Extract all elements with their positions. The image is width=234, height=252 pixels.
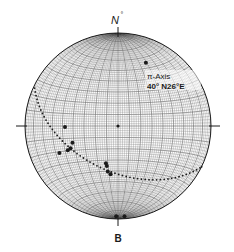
girdle-dot: [56, 134, 58, 136]
data-point: [109, 172, 113, 176]
girdle-dot: [156, 179, 158, 181]
girdle-dot: [61, 140, 63, 142]
girdle-dot: [137, 178, 139, 180]
girdle-dot: [45, 119, 47, 121]
data-point: [116, 124, 119, 127]
girdle-dot: [43, 116, 45, 118]
girdle-dot: [76, 153, 78, 155]
girdle-dot: [201, 166, 203, 168]
girdle-dot: [144, 179, 146, 181]
girdle-dot: [129, 176, 131, 178]
girdle-dot: [125, 176, 127, 178]
girdle-dot: [36, 98, 38, 100]
north-degree-mark: °: [121, 11, 124, 18]
girdle-dot: [47, 122, 49, 124]
north-label: N: [111, 14, 119, 26]
data-point: [63, 125, 67, 129]
pi-axis-orientation: 40° N26°E: [147, 82, 185, 91]
girdle-dot: [54, 132, 56, 134]
girdle-dot: [192, 171, 194, 173]
girdle-dot: [167, 178, 169, 180]
girdle-dot: [199, 167, 201, 169]
girdle-dot: [100, 167, 102, 169]
girdle-dot: [178, 176, 180, 178]
girdle-dot: [64, 143, 66, 145]
girdle-dot: [103, 168, 105, 170]
girdle-dot: [148, 179, 150, 181]
data-point: [70, 141, 74, 145]
girdle-dot: [73, 150, 75, 152]
girdle-dot: [79, 155, 81, 157]
girdle-dot: [39, 106, 41, 108]
girdle-dot: [122, 175, 124, 177]
girdle-dot: [42, 113, 44, 115]
pi-axis-point: [144, 61, 148, 65]
girdle-dot: [89, 161, 91, 163]
data-point: [105, 164, 109, 168]
data-point: [123, 214, 127, 218]
girdle-dot: [35, 95, 37, 97]
data-point: [57, 151, 61, 155]
girdle-dot: [182, 175, 184, 177]
bottom-label: B: [114, 233, 121, 244]
girdle-dot: [160, 179, 162, 181]
girdle-dot: [86, 159, 88, 161]
girdle-dot: [83, 157, 85, 159]
stereonet-diagram: N ° B π-Axis 40° N26°E: [0, 0, 234, 252]
girdle-dot: [34, 87, 36, 89]
girdle-dot: [133, 177, 135, 179]
pi-axis-label: π-Axis: [147, 72, 170, 81]
girdle-dot: [67, 145, 69, 147]
girdle-dot: [118, 174, 120, 176]
girdle-dot: [171, 177, 173, 179]
data-point: [66, 148, 70, 152]
girdle-dot: [196, 169, 198, 171]
data-point: [114, 214, 118, 218]
girdle-dot: [140, 178, 142, 180]
girdle-dot: [34, 91, 36, 93]
girdle-dot: [174, 177, 176, 179]
girdle-dot: [189, 172, 191, 174]
girdle-dot: [96, 165, 98, 167]
girdle-dot: [163, 178, 165, 180]
girdle-dot: [59, 137, 61, 139]
girdle-dot: [93, 163, 95, 165]
girdle-dot: [49, 125, 51, 127]
girdle-dot: [37, 102, 39, 104]
girdle-dot: [152, 179, 154, 181]
girdle-dot: [114, 172, 116, 174]
girdle-dot: [51, 129, 53, 131]
girdle-dot: [185, 174, 187, 176]
girdle-dot: [40, 109, 42, 111]
